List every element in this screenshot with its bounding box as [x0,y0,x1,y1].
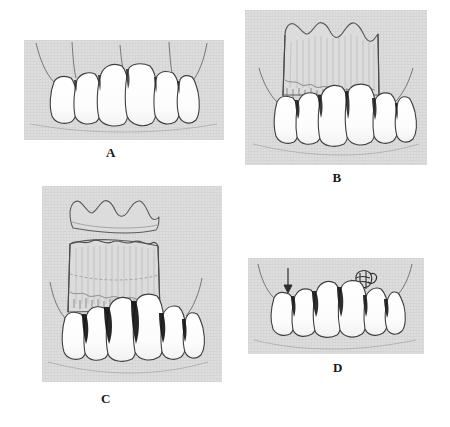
tooth-central-right [345,84,376,145]
tooth-central-right [125,64,157,126]
panel-b-illustration [245,10,427,165]
tooth-lateral-right [154,72,180,124]
panel-b [245,10,427,165]
panel-c [42,186,222,382]
tooth-central-left [318,85,349,146]
tooth-central-left [97,64,129,126]
panel-d-illustration [248,258,424,354]
panel-b-label: B [322,170,352,186]
panel-c-illustration [42,186,222,382]
tooth-canine-left [50,76,77,123]
figure-container: A [0,0,450,427]
panel-d [248,258,424,354]
tooth-lateral-right [364,288,388,335]
tooth-lateral-right [373,93,398,144]
panel-a-illustration [24,40,224,140]
panel-a-label: A [96,145,126,161]
panel-d-label: D [323,360,353,376]
panel-a [24,40,224,140]
panel-c-label: C [91,391,121,407]
